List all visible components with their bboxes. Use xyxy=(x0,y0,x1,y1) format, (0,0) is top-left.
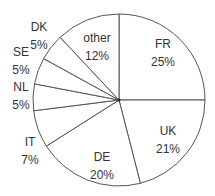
slice-percent-nl: 5% xyxy=(12,98,30,112)
slice-label-de: DE xyxy=(94,150,111,164)
slice-percent-uk: 21% xyxy=(156,142,180,156)
slice-label-it: IT xyxy=(25,135,36,149)
slice-label-nl: NL xyxy=(13,80,29,94)
slice-percent-fr: 25% xyxy=(151,55,175,69)
pie-chart: FR25%UK21%DE20%IT7%NL5%SE5%DK5%other12% xyxy=(0,0,215,196)
slice-percent-other: 12% xyxy=(85,49,109,63)
slice-percent-se: 5% xyxy=(12,63,30,77)
slice-label-se: SE xyxy=(13,45,29,59)
slice-label-dk: DK xyxy=(31,20,48,34)
slice-label-other: other xyxy=(83,31,110,45)
slice-label-uk: UK xyxy=(160,124,177,138)
slice-percent-de: 20% xyxy=(90,168,114,182)
pie-center xyxy=(118,99,121,102)
pie-slices xyxy=(33,14,205,186)
slice-label-fr: FR xyxy=(155,37,171,51)
slice-percent-dk: 5% xyxy=(30,38,48,52)
slice-percent-it: 7% xyxy=(21,153,39,167)
